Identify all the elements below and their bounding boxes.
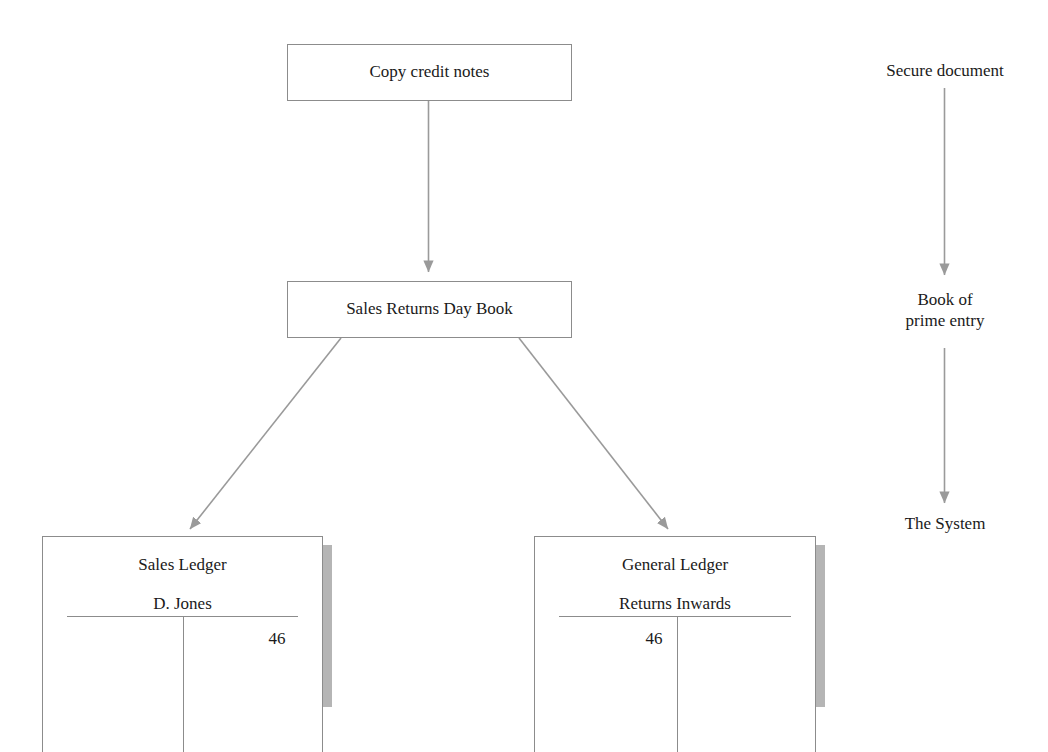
sales-ledger-title: Sales Ledger <box>43 555 322 575</box>
annotation-book-of-prime-entry: Book of prime entry <box>854 289 1036 332</box>
ledger-sales-ledger[interactable]: Sales Ledger D. Jones 46 <box>42 536 323 752</box>
diagram-canvas: Copy credit notes Sales Returns Day Book… <box>0 0 1048 752</box>
general-ledger-shadow <box>816 545 825 707</box>
annotation-the-system: The System <box>854 513 1036 534</box>
arrow-daybook-to-general-ledger <box>519 338 668 529</box>
box-sales-returns-day-book-label: Sales Returns Day Book <box>346 299 513 319</box>
sales-ledger-divider <box>183 616 184 752</box>
general-ledger-debit-amount: 46 <box>630 629 678 649</box>
general-ledger-title: General Ledger <box>535 555 815 575</box>
sales-ledger-account: D. Jones <box>43 594 322 614</box>
box-copy-credit-notes[interactable]: Copy credit notes <box>287 44 572 101</box>
general-ledger-account: Returns Inwards <box>535 594 815 614</box>
sales-ledger-credit-amount: 46 <box>253 629 301 649</box>
box-sales-returns-day-book[interactable]: Sales Returns Day Book <box>287 281 572 338</box>
general-ledger-rule <box>559 616 791 617</box>
ledger-general-ledger[interactable]: General Ledger Returns Inwards 46 <box>534 536 816 752</box>
arrow-daybook-to-sales-ledger <box>190 338 341 529</box>
box-copy-credit-notes-label: Copy credit notes <box>370 62 490 82</box>
sales-ledger-shadow <box>323 545 332 707</box>
annotation-secure-document: Secure document <box>854 60 1036 81</box>
